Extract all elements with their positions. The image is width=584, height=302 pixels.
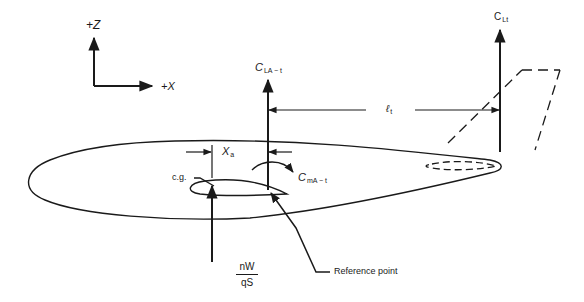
aircraft-force-diagram: +Z +X CLA − t CLt ℓt Xa CmA − t c.g. Ref… bbox=[0, 0, 584, 302]
wing-airfoil bbox=[190, 180, 287, 196]
tail-lift-label: CLt bbox=[494, 12, 508, 23]
fuselage-outline bbox=[29, 141, 502, 220]
tail-arm-label: ℓt bbox=[386, 104, 392, 115]
pitching-moment-arrow bbox=[252, 162, 293, 172]
axes-icon bbox=[94, 38, 152, 86]
z-axis-label: +Z bbox=[86, 19, 100, 31]
reference-point-label: Reference point bbox=[334, 267, 398, 276]
cg-offset-label: Xa bbox=[222, 146, 234, 158]
cg-label: c.g. bbox=[172, 173, 187, 182]
wing-lift-label: CLA − t bbox=[255, 62, 282, 74]
horizontal-tail bbox=[426, 162, 496, 170]
diagram-graphics bbox=[0, 0, 584, 302]
x-axis-label: +X bbox=[161, 81, 175, 92]
cg-offset-dimension bbox=[186, 145, 292, 178]
reference-point-leader bbox=[271, 193, 330, 272]
fraction-bar bbox=[236, 274, 258, 275]
load-factor-fraction: nW qS bbox=[236, 261, 258, 288]
wing-moment-label: CmA − t bbox=[298, 172, 327, 184]
